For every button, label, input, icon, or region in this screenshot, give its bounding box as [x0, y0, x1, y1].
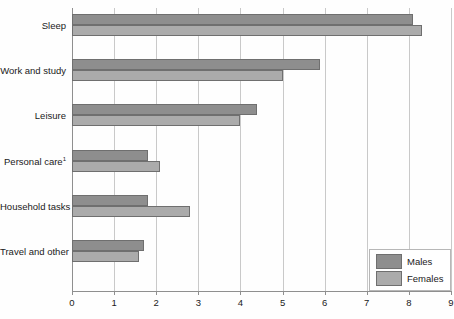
bar-females-sleep — [72, 25, 422, 36]
legend: Males Females — [369, 249, 451, 291]
tick-mark-6 — [325, 291, 326, 295]
gridline-9 — [451, 8, 452, 291]
category-label-leisure: Leisure — [0, 110, 66, 121]
tick-mark-2 — [156, 291, 157, 295]
category-label-travel-and-other: Travel and other — [0, 246, 66, 257]
legend-swatch-females-icon — [376, 271, 402, 286]
bar-females-household-tasks — [72, 206, 190, 217]
gridline-4 — [240, 8, 241, 291]
legend-label-females: Females — [407, 273, 443, 284]
category-label-text: Personal care — [4, 156, 63, 167]
gridline-5 — [283, 8, 284, 291]
tick-mark-3 — [198, 291, 199, 295]
tick-mark-8 — [409, 291, 410, 295]
bar-males-work-and-study — [72, 59, 320, 70]
tick-mark-0 — [72, 291, 73, 295]
bar-males-leisure — [72, 104, 257, 115]
x-tick-label-0: 0 — [69, 297, 74, 308]
legend-label-males: Males — [407, 256, 432, 267]
legend-item-males: Males — [376, 254, 432, 269]
bar-males-travel-and-other — [72, 240, 144, 251]
tick-mark-4 — [240, 291, 241, 295]
category-label-sleep: Sleep — [0, 20, 66, 31]
bar-males-household-tasks — [72, 195, 148, 206]
x-axis-line — [72, 291, 452, 292]
x-tick-label-3: 3 — [196, 297, 201, 308]
gridline-7 — [367, 8, 368, 291]
x-tick-label-1: 1 — [111, 297, 116, 308]
category-label-work-and-study: Work and study — [0, 65, 66, 76]
x-tick-label-5: 5 — [280, 297, 285, 308]
tick-mark-9 — [451, 291, 452, 295]
gridline-3 — [198, 8, 199, 291]
x-tick-label-2: 2 — [154, 297, 159, 308]
tick-mark-7 — [367, 291, 368, 295]
legend-item-females: Females — [376, 271, 443, 286]
category-label-household-tasks: Household tasks — [0, 201, 66, 212]
category-label-personal-care: Personal care1 — [0, 156, 66, 167]
x-tick-label-6: 6 — [322, 297, 327, 308]
bar-males-personal-care — [72, 150, 148, 161]
category-footnote-marker: 1 — [63, 155, 66, 161]
bar-females-work-and-study — [72, 70, 283, 81]
tick-mark-5 — [283, 291, 284, 295]
x-tick-label-7: 7 — [364, 297, 369, 308]
x-tick-label-8: 8 — [406, 297, 411, 308]
gridline-2 — [156, 8, 157, 291]
bar-females-personal-care — [72, 161, 160, 172]
x-tick-label-9: 9 — [448, 297, 453, 308]
gridline-6 — [325, 8, 326, 291]
bar-females-leisure — [72, 115, 240, 126]
legend-swatch-males-icon — [376, 254, 402, 269]
bar-males-sleep — [72, 14, 413, 25]
bar-females-travel-and-other — [72, 251, 139, 262]
x-tick-label-4: 4 — [238, 297, 243, 308]
tick-mark-1 — [114, 291, 115, 295]
